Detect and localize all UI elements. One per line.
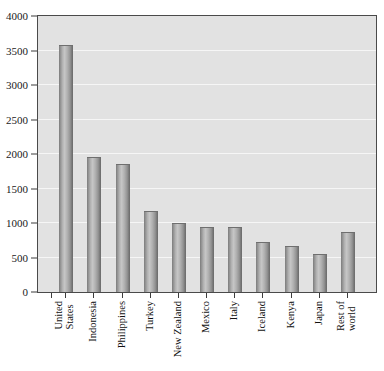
x-axis-tick-mark bbox=[206, 293, 207, 298]
y-axis-tick-mark bbox=[31, 119, 37, 120]
x-axis-tick-label: Kenya bbox=[285, 301, 296, 328]
y-axis-tick-label: 2500 bbox=[6, 114, 28, 125]
y-axis-tick-label: 3500 bbox=[6, 45, 28, 56]
x-axis-tick-mark bbox=[234, 293, 235, 298]
y-axis-tick-mark bbox=[31, 50, 37, 51]
x-axis-tick-mark bbox=[319, 293, 320, 298]
x-axis-tick-label: Philippines bbox=[116, 301, 127, 348]
x-axis-tick-mark bbox=[150, 293, 151, 298]
x-axis-tick-mark bbox=[51, 293, 52, 298]
y-axis-tick-label: 1500 bbox=[6, 183, 28, 194]
x-axis-tick-mark bbox=[291, 293, 292, 298]
x-axis-tick-label: Japan bbox=[313, 301, 324, 325]
bar bbox=[59, 45, 73, 292]
gridline bbox=[38, 50, 376, 51]
x-axis-tick-mark bbox=[262, 293, 263, 298]
x-axis-tick-label: Indonesia bbox=[88, 301, 99, 342]
y-axis: 05001000150020002500300035004000 bbox=[0, 0, 37, 310]
bar bbox=[200, 227, 214, 292]
x-axis-tick-label: Italy bbox=[229, 301, 240, 320]
x-axis-tick-label: Rest ofworld bbox=[336, 301, 357, 331]
x-axis-tick-label: Turkey bbox=[144, 301, 155, 331]
bar bbox=[341, 232, 355, 292]
x-axis-tick-mark bbox=[122, 293, 123, 298]
y-axis-tick-label: 500 bbox=[12, 252, 29, 263]
x-axis-tick-mark bbox=[178, 293, 179, 298]
x-axis-tick-label: Mexico bbox=[201, 301, 212, 333]
bar bbox=[172, 223, 186, 292]
y-axis-tick-label: 4000 bbox=[6, 11, 28, 22]
y-axis-tick-mark bbox=[31, 16, 37, 17]
y-axis-tick-mark bbox=[31, 85, 37, 86]
y-axis-tick-mark bbox=[31, 257, 37, 258]
bar bbox=[313, 254, 327, 292]
bar-chart: 05001000150020002500300035004000 UnitedS… bbox=[0, 0, 384, 371]
bar bbox=[256, 242, 270, 292]
bar bbox=[144, 211, 158, 292]
plot-area bbox=[37, 15, 377, 293]
x-axis-tick-label: New Zealand bbox=[172, 301, 183, 357]
y-axis-tick-label: 2000 bbox=[6, 149, 28, 160]
x-axis: UnitedStatesIndonesiaPhilippinesTurkeyNe… bbox=[37, 293, 377, 371]
x-axis-tick-mark bbox=[65, 293, 66, 298]
x-axis-tick-mark bbox=[347, 293, 348, 298]
y-axis-tick-mark bbox=[31, 154, 37, 155]
bar bbox=[285, 246, 299, 292]
bar bbox=[116, 164, 130, 292]
y-axis-tick-mark bbox=[31, 188, 37, 189]
y-axis-tick-label: 0 bbox=[23, 287, 29, 298]
bar bbox=[87, 157, 101, 292]
x-axis-tick-label: Iceland bbox=[257, 301, 268, 332]
gridline bbox=[38, 119, 376, 120]
x-axis-tick-mark bbox=[93, 293, 94, 298]
y-axis-tick-label: 1000 bbox=[6, 218, 28, 229]
bar bbox=[228, 227, 242, 292]
y-axis-tick-mark bbox=[31, 223, 37, 224]
gridline bbox=[38, 153, 376, 154]
x-axis-tick-label: UnitedStates bbox=[54, 301, 75, 330]
gridline bbox=[38, 84, 376, 85]
y-axis-tick-label: 3000 bbox=[6, 80, 28, 91]
